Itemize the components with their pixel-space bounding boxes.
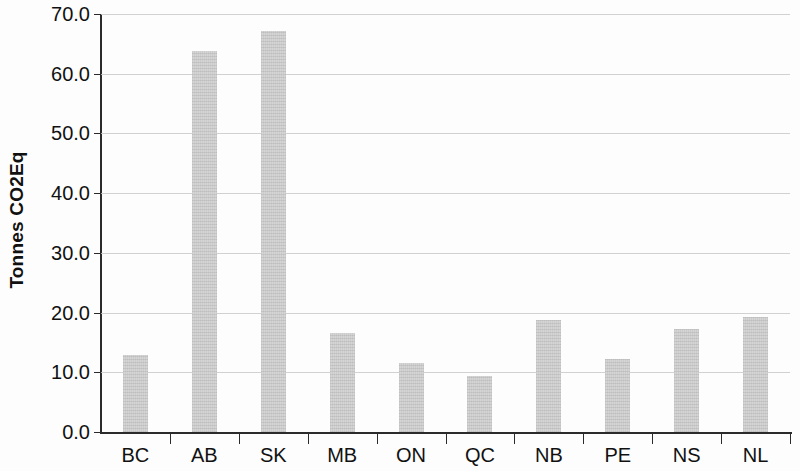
- x-axis-label-nb: NB: [514, 444, 584, 467]
- y-axis-tick-label: 10.0: [10, 361, 90, 384]
- y-axis-tick-label: 0.0: [10, 421, 90, 444]
- x-axis-tick: [790, 433, 791, 444]
- bar-sk: [261, 31, 286, 432]
- bar-qc: [467, 376, 492, 432]
- x-axis-tick: [583, 433, 584, 444]
- x-axis-label-pe: PE: [583, 444, 653, 467]
- y-axis-title-text: Tonnes CO2Eq: [6, 151, 28, 288]
- x-axis-label-ns: NS: [652, 444, 722, 467]
- x-axis-tick: [170, 433, 171, 444]
- bar-nl: [743, 317, 768, 432]
- y-axis-tick-label: 70.0: [10, 3, 90, 26]
- x-axis-tick: [652, 433, 653, 444]
- bar-on: [399, 363, 424, 432]
- bar-chart: Tonnes CO2Eq 0.010.020.030.040.050.060.0…: [0, 0, 800, 471]
- bar-mb: [330, 333, 355, 432]
- x-axis-tick: [239, 433, 240, 444]
- y-axis-tick-label: 60.0: [10, 62, 90, 85]
- y-axis-tick-label: 40.0: [10, 182, 90, 205]
- x-axis-tick: [308, 433, 309, 444]
- y-axis-tick-label: 50.0: [10, 122, 90, 145]
- bar-ns: [674, 329, 699, 432]
- x-axis-tick: [514, 433, 515, 444]
- y-axis-tick-label: 30.0: [10, 241, 90, 264]
- bar-nb: [536, 320, 561, 432]
- x-axis-label-sk: SK: [238, 444, 308, 467]
- gridline: [101, 14, 790, 15]
- y-axis-tick-label: 20.0: [10, 301, 90, 324]
- x-axis-tick: [377, 433, 378, 444]
- x-axis-label-ab: AB: [169, 444, 239, 467]
- x-axis-label-on: ON: [376, 444, 446, 467]
- bar-bc: [123, 355, 148, 432]
- x-axis-label-mb: MB: [307, 444, 377, 467]
- x-axis-tick: [721, 433, 722, 444]
- plot-area: [101, 14, 790, 432]
- x-axis-label-bc: BC: [100, 444, 170, 467]
- x-axis-label-qc: QC: [445, 444, 515, 467]
- bar-pe: [605, 359, 630, 432]
- x-axis-tick: [446, 433, 447, 444]
- x-axis-label-nl: NL: [721, 444, 791, 467]
- bar-ab: [192, 51, 217, 432]
